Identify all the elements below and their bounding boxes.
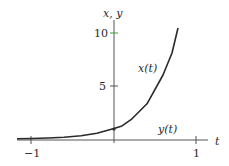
curve-label-x: x(t) bbox=[138, 62, 157, 75]
y-axis-label: x, y bbox=[103, 7, 123, 20]
x-axis-label: t bbox=[215, 135, 220, 148]
curve-label-y: y(t) bbox=[157, 123, 177, 136]
chart: −1 1 5 10 x, y t x(t) y(t) bbox=[0, 0, 229, 166]
tick-label-10: 10 bbox=[94, 27, 108, 40]
curve-x-of-t bbox=[17, 28, 178, 139]
tick-label-pos1: 1 bbox=[193, 147, 200, 160]
tick-label-5: 5 bbox=[99, 80, 106, 93]
tick-label-neg1: −1 bbox=[24, 147, 40, 160]
point-t0 bbox=[112, 127, 115, 130]
